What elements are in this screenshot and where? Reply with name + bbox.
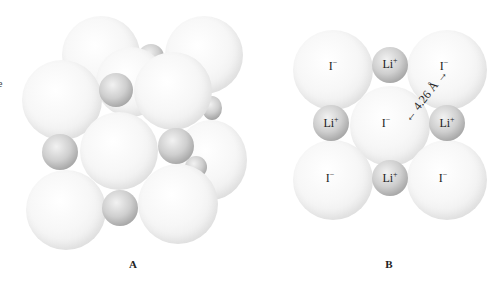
ion-label-center: I−	[382, 115, 391, 131]
lithium-sphere	[99, 73, 133, 107]
ion-label-bottom-right: I−	[439, 170, 448, 186]
iodide-sphere	[138, 164, 218, 244]
iodide-sphere	[26, 170, 106, 250]
lithium-sphere	[42, 134, 78, 170]
ion-label-top-left: I−	[329, 58, 338, 74]
panel-a-label: A	[129, 258, 137, 270]
ion-label-bottom-middle: Li+	[382, 170, 397, 186]
lithium-sphere	[102, 190, 138, 226]
cropped-text-fragment: e	[0, 78, 2, 89]
iodide-sphere	[134, 52, 212, 130]
ion-label-middle-left: Li+	[323, 115, 338, 131]
panel-b-label: B	[385, 258, 392, 270]
ion-label-bottom-left: I−	[326, 170, 335, 186]
ion-label-middle-right: Li+	[439, 115, 454, 131]
ion-label-top-middle: Li+	[382, 56, 397, 72]
lithium-sphere	[158, 128, 194, 164]
